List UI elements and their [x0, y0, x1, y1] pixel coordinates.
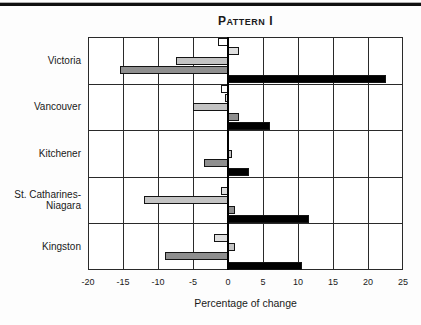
- x-tick-label: -5: [178, 277, 208, 287]
- x-tick-label: -15: [108, 277, 138, 287]
- x-axis-title: Percentage of change: [88, 297, 403, 309]
- bar-vancouver-series-4-dark-gray: [228, 113, 239, 121]
- category-label-line: Niagara: [0, 200, 81, 212]
- zero-axis: [227, 37, 229, 270]
- x-tick-label: 0: [213, 277, 243, 287]
- bar-victoria-series-5-black: [228, 75, 386, 83]
- gridline-vertical: [298, 37, 299, 270]
- bar-kingston-series-2-light-gray: [214, 234, 228, 242]
- x-tick-label: -10: [143, 277, 173, 287]
- x-tick-label: 10: [283, 277, 313, 287]
- x-tick-label: -20: [73, 277, 103, 287]
- category-label-text: Kingston: [0, 241, 81, 253]
- bar-victoria-series-2-light-gray: [228, 47, 239, 55]
- bar-kitchener-series-4-dark-gray: [204, 159, 229, 167]
- category-label-line: Victoria: [0, 55, 81, 67]
- page: PATTERNI VictoriaVancouverKitchenerSt. C…: [0, 0, 421, 325]
- gridline-vertical: [263, 37, 264, 270]
- bar-vancouver-series-3-medium-gray: [193, 103, 228, 111]
- bar-vancouver-series-5-black: [228, 122, 270, 130]
- category-label-line: Kingston: [0, 241, 81, 253]
- bar-kitchener-series-5-black: [228, 168, 249, 176]
- gridline-horizontal: [88, 177, 403, 178]
- gridline-vertical: [333, 37, 334, 270]
- bar-kingston-series-3-medium-gray: [228, 243, 235, 251]
- x-tick-label: 20: [353, 277, 383, 287]
- category-label: Kitchener: [0, 130, 81, 177]
- bar-kingston-series-5-black: [228, 262, 302, 270]
- x-tick-label: 5: [248, 277, 278, 287]
- x-tick-label: 25: [388, 277, 418, 287]
- category-label: Victoria: [0, 37, 81, 84]
- bar-st-catharines-niagara-series-5-black: [228, 215, 309, 223]
- bar-st-catharines-niagara-series-3-medium-gray: [144, 196, 228, 204]
- category-label-line: St. Catharines-: [0, 189, 81, 201]
- category-label: Kingston: [0, 223, 81, 270]
- gridline-horizontal: [88, 130, 403, 131]
- bar-kingston-series-4-dark-gray: [165, 252, 228, 260]
- bar-victoria-series-4-dark-gray: [120, 66, 229, 74]
- gridline-vertical: [368, 37, 369, 270]
- category-label-text: St. Catharines-Niagara: [0, 189, 81, 212]
- category-label-text: Kitchener: [0, 148, 81, 160]
- category-label-text: Victoria: [0, 55, 81, 67]
- category-label-line: Kitchener: [0, 148, 81, 160]
- bar-chart: VictoriaVancouverKitchenerSt. Catharines…: [0, 0, 421, 325]
- x-tick-label: 15: [318, 277, 348, 287]
- category-label: St. Catharines-Niagara: [0, 177, 81, 224]
- category-label-text: Vancouver: [0, 101, 81, 113]
- bar-st-catharines-niagara-series-4-dark-gray: [228, 206, 235, 214]
- gridline-horizontal: [88, 223, 403, 224]
- bar-victoria-series-3-medium-gray: [176, 57, 229, 65]
- category-label: Vancouver: [0, 84, 81, 131]
- gridline-horizontal: [88, 84, 403, 85]
- category-label-line: Vancouver: [0, 101, 81, 113]
